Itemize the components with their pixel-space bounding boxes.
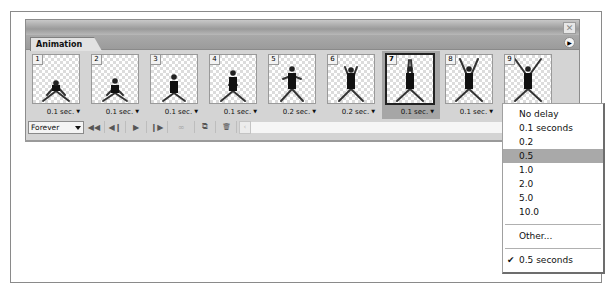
frame-3[interactable]: 30.1 sec.▼	[146, 51, 204, 119]
frame-thumbnail[interactable]: 8	[445, 54, 493, 104]
frame-thumbnail[interactable]: 7	[385, 53, 435, 105]
frame-number: 9	[505, 55, 515, 65]
frame-2[interactable]: 20.1 sec.▼	[87, 51, 145, 119]
chevron-down-icon: ▼	[253, 108, 257, 114]
play-icon: ▶	[133, 123, 139, 132]
frame-number: 3	[151, 55, 161, 65]
frame-5[interactable]: 50.2 sec.▼	[264, 51, 322, 119]
frame-number: 8	[446, 55, 456, 65]
frame-delay-dropdown[interactable]: 0.2 sec.▼	[323, 106, 381, 117]
frame-delay-dropdown[interactable]: 0.1 sec.▼	[87, 106, 145, 117]
frame-thumbnail[interactable]: 6	[327, 54, 375, 104]
frame-delay-menu: No delay 0.1 seconds 0.2 0.5 1.0 2.0 5.0…	[502, 103, 605, 274]
frame-thumbnail[interactable]: 4	[209, 54, 257, 104]
menu-item-0-2[interactable]: 0.2	[503, 135, 603, 149]
loop-value: Forever	[31, 123, 59, 132]
frame-thumbnail[interactable]: 9	[504, 54, 552, 104]
chevron-down-icon	[75, 126, 81, 130]
frame-delay-dropdown[interactable]: 0.2 sec.▼	[264, 106, 322, 117]
menu-item-0-1-seconds[interactable]: 0.1 seconds	[503, 121, 603, 135]
divider	[25, 140, 580, 142]
loop-options-select[interactable]: Forever	[28, 121, 84, 134]
play-button[interactable]: ▶	[126, 121, 147, 133]
checkmark-icon: ✔	[507, 253, 515, 267]
frame-delay-value: 0.1 sec.	[224, 108, 251, 116]
close-icon[interactable]: ✕	[563, 22, 576, 34]
frame-delay-dropdown[interactable]: 0.1 sec.▼	[441, 106, 499, 117]
menu-item-10-0[interactable]: 10.0	[503, 205, 603, 219]
chevron-down-icon: ▼	[489, 108, 493, 114]
chevron-down-icon: ▼	[135, 108, 139, 114]
tab-animation[interactable]: Animation	[30, 37, 95, 51]
menu-item-1-0[interactable]: 1.0	[503, 163, 603, 177]
frame-delay-value: 0.1 sec.	[401, 108, 428, 116]
chevron-down-icon: ▼	[312, 108, 316, 114]
tween-icon: ∞	[178, 123, 185, 132]
frame-number: 6	[328, 55, 338, 65]
frame-8[interactable]: 80.1 sec.▼	[441, 51, 499, 119]
frame-delay-value: 0.1 sec.	[106, 108, 133, 116]
menu-separator	[505, 224, 601, 225]
frame-4[interactable]: 40.1 sec.▼	[205, 51, 263, 119]
panel-menu-arrow-icon[interactable]: ▶	[564, 37, 575, 48]
menu-item-no-delay[interactable]: No delay	[503, 107, 603, 121]
delete-frame-button[interactable]: 🗑	[216, 121, 237, 133]
frame-number: 2	[92, 55, 102, 65]
animation-toolbar: Forever ◀◀ ◀❙ ▶ ❙▶ ∞ ⧉ 🗑 ‹	[28, 121, 577, 133]
menu-item-2-0[interactable]: 2.0	[503, 177, 603, 191]
menu-item-0-5[interactable]: 0.5	[503, 149, 603, 163]
step-back-icon: ◀❙	[109, 123, 122, 132]
menu-item-current[interactable]: ✔ 0.5 seconds	[503, 253, 603, 267]
frame-6[interactable]: 60.2 sec.▼	[323, 51, 381, 119]
frames-strip: 10.1 sec.▼20.1 sec.▼30.1 sec.▼40.1 sec.▼…	[28, 51, 577, 119]
chevron-down-icon: ▼	[194, 108, 198, 114]
frame-delay-dropdown[interactable]: 0.1 sec.▼	[146, 106, 204, 117]
frame-thumbnail[interactable]: 5	[268, 54, 316, 104]
scroll-left-button[interactable]: ‹	[239, 121, 251, 134]
menu-separator	[505, 248, 601, 249]
trash-icon: 🗑	[222, 123, 231, 131]
frame-thumbnail[interactable]: 3	[150, 54, 198, 104]
first-frame-button[interactable]: ◀◀	[84, 121, 105, 133]
frame-number: 5	[269, 55, 279, 65]
frame-delay-value: 0.2 sec.	[342, 108, 369, 116]
panel-titlebar[interactable]: ✕	[26, 20, 579, 35]
duplicate-frame-button[interactable]: ⧉	[195, 121, 216, 133]
next-frame-button[interactable]: ❙▶	[147, 121, 168, 133]
frame-thumbnail[interactable]: 2	[91, 54, 139, 104]
panel-tab-row: Animation ▶	[26, 35, 579, 50]
frame-delay-dropdown[interactable]: 0.1 sec.▼	[28, 106, 86, 117]
frame-number: 7	[387, 55, 397, 65]
frame-number: 4	[210, 55, 220, 65]
frame-number: 1	[33, 55, 43, 65]
frame-delay-dropdown[interactable]: 0.1 sec.▼	[382, 106, 440, 117]
tween-button[interactable]: ∞	[168, 121, 195, 133]
chevron-down-icon: ▼	[76, 108, 80, 114]
frame-delay-value: 0.1 sec.	[47, 108, 74, 116]
frame-delay-dropdown[interactable]: 0.1 sec.▼	[205, 106, 263, 117]
rewind-icon: ◀◀	[88, 123, 100, 132]
new-frame-icon: ⧉	[202, 122, 208, 132]
frame-1[interactable]: 10.1 sec.▼	[28, 51, 86, 119]
step-forward-icon: ❙▶	[151, 123, 164, 132]
chevron-down-icon: ▼	[430, 108, 434, 114]
current-delay-label: 0.5 seconds	[519, 255, 573, 265]
menu-item-5-0[interactable]: 5.0	[503, 191, 603, 205]
previous-frame-button[interactable]: ◀❙	[105, 121, 126, 133]
frame-7[interactable]: 70.1 sec.▼	[382, 51, 440, 119]
frame-delay-value: 0.1 sec.	[165, 108, 192, 116]
menu-item-other[interactable]: Other...	[503, 229, 603, 243]
frame-thumbnail[interactable]: 1	[32, 54, 80, 104]
frame-delay-value: 0.2 sec.	[283, 108, 310, 116]
frame-delay-value: 0.1 sec.	[460, 108, 487, 116]
chevron-down-icon: ▼	[371, 108, 375, 114]
animation-panel: ✕ Animation ▶ 10.1 sec.▼20.1 sec.▼30.1 s…	[25, 19, 580, 141]
